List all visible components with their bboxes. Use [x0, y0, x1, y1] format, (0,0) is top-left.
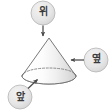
callout-badge-top[interactable] — [31, 1, 55, 25]
diagram-canvas: 위 옆 앞 — [0, 0, 112, 112]
callout-badge-side[interactable] — [84, 48, 108, 72]
cone-lateral-surface — [22, 38, 76, 84]
cone-views-diagram — [0, 0, 112, 112]
cone-shape — [22, 38, 76, 84]
